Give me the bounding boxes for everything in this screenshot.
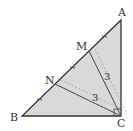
triangle-abc: [22, 20, 121, 116]
label-a: A: [117, 6, 127, 19]
label-m: M: [76, 40, 87, 53]
label-length-nc: 3: [92, 92, 98, 103]
label-c: C: [117, 117, 125, 130]
label-length-mc: 3: [104, 71, 110, 82]
label-b: B: [10, 111, 18, 124]
geometry-diagram: A B C M N 3 3: [0, 0, 133, 131]
label-n: N: [45, 74, 55, 87]
